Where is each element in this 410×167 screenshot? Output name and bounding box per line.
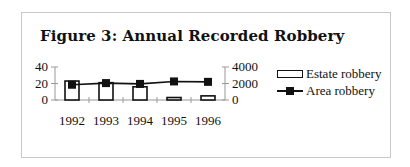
legend-item-estate-robbery: Estate robbery bbox=[277, 66, 381, 82]
area-robbery-marker bbox=[170, 77, 178, 85]
x-axis-tick-label: 1992 bbox=[59, 113, 85, 128]
right-axis-tick-label: 0 bbox=[232, 92, 239, 107]
area-robbery-line bbox=[68, 77, 212, 88]
bar-swatch-icon bbox=[277, 70, 303, 78]
legend-label: Area robbery bbox=[306, 83, 375, 99]
estate-robbery-bar bbox=[201, 96, 215, 100]
left-axis-tick-label: 20 bbox=[35, 76, 48, 91]
estate-robbery-bar bbox=[133, 87, 147, 100]
left-axis-tick-label: 0 bbox=[42, 92, 49, 107]
legend-item-area-robbery: Area robbery bbox=[277, 83, 381, 99]
x-axis-tick-label: 1993 bbox=[93, 113, 119, 128]
area-robbery-marker bbox=[68, 81, 76, 89]
x-axis-tick-label: 1996 bbox=[195, 113, 222, 128]
x-axis-tick-label: 1995 bbox=[161, 113, 187, 128]
area-robbery-marker bbox=[102, 79, 110, 87]
area-robbery-marker bbox=[204, 78, 212, 86]
right-axis-tick-label: 2000 bbox=[232, 76, 258, 91]
right-axis-tick-label: 4000 bbox=[232, 59, 258, 74]
left-axis-tick-label: 40 bbox=[35, 59, 48, 74]
x-axis-tick-label: 1994 bbox=[127, 113, 154, 128]
area-robbery-marker bbox=[136, 80, 144, 88]
legend-label: Estate robbery bbox=[306, 66, 381, 82]
legend: Estate robbery Area robbery bbox=[277, 66, 381, 100]
line-marker-swatch-icon bbox=[277, 86, 303, 96]
estate-robbery-bar bbox=[167, 98, 181, 100]
